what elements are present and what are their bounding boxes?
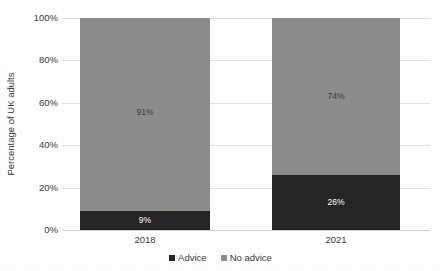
legend-swatch-icon <box>221 255 227 261</box>
x-tick-label-2018: 2018 <box>80 234 210 246</box>
legend-swatch-icon <box>169 255 175 261</box>
y-tick-40: 40% <box>0 140 58 150</box>
y-tick-0: 0% <box>0 225 58 235</box>
bar-2021[interactable]: 74% 26% <box>272 18 400 230</box>
y-tick-label: 0% <box>12 225 58 235</box>
y-tick-100: 100% <box>0 13 58 23</box>
bar-segment-no-advice[interactable]: 91% <box>80 18 210 211</box>
y-tick-60: 60% <box>0 98 58 108</box>
y-tick-label: 40% <box>12 140 58 150</box>
gridline-0 <box>62 230 430 231</box>
x-tick-label-2021: 2021 <box>272 234 400 246</box>
y-tick-label: 60% <box>12 98 58 108</box>
stacked-bar-chart: Percentage of UK adults 100% 80% 60% 40%… <box>0 0 441 271</box>
bar-segment-label: 9% <box>80 215 210 225</box>
legend-item-no-advice[interactable]: No advice <box>221 252 272 264</box>
bar-segment-label: 74% <box>272 91 400 101</box>
legend-item-label: No advice <box>230 252 272 264</box>
y-tick-label: 80% <box>12 55 58 65</box>
bar-segment-label: 91% <box>80 107 210 117</box>
y-tick-label: 20% <box>12 183 58 193</box>
legend-item-advice[interactable]: Advice <box>169 252 207 264</box>
legend-item-label: Advice <box>178 252 207 264</box>
bar-segment-no-advice[interactable]: 74% <box>272 18 400 175</box>
bar-2018[interactable]: 91% 9% <box>80 18 210 230</box>
y-tick-label: 100% <box>12 13 58 23</box>
bar-segment-advice[interactable]: 26% <box>272 175 400 230</box>
plot-area: 100% 80% 60% 40% 20% 0% 91% 9% <box>0 0 441 271</box>
y-tick-80: 80% <box>0 55 58 65</box>
legend: Advice No advice <box>0 252 441 264</box>
bar-segment-advice[interactable]: 9% <box>80 211 210 230</box>
y-tick-20: 20% <box>0 183 58 193</box>
bar-segment-label: 26% <box>272 197 400 207</box>
